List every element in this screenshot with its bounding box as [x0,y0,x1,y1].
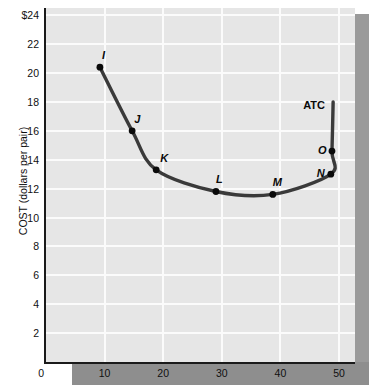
point-label-k: K [160,153,168,164]
atc-curve-layer [0,0,369,386]
data-point-n [327,171,334,178]
atc-series-label: ATC [303,100,325,111]
data-point-i [97,64,104,71]
point-label-i: I [102,50,105,61]
point-label-n: N [317,168,325,179]
data-point-k [153,166,160,173]
point-label-l: L [216,174,223,185]
data-point-m [269,191,276,198]
data-point-j [129,127,136,134]
chart-figure: 246810121416182022$24 01020304050 COST (… [0,0,369,386]
data-point-l [213,188,220,195]
point-label-m: M [273,177,282,188]
data-point-o [329,148,336,155]
point-label-o: O [318,145,327,156]
point-label-j: J [134,114,140,125]
